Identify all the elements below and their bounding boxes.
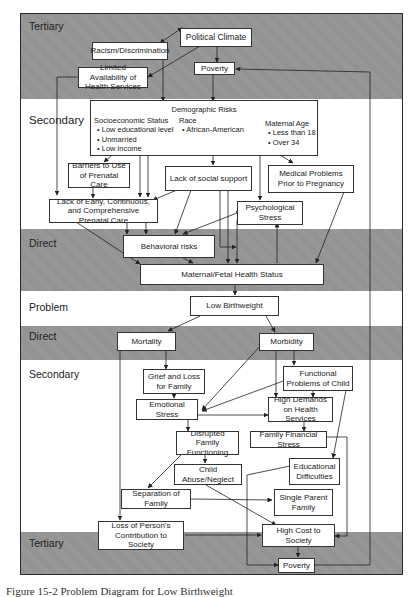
node-medical-problems: Medical Problems Prior to Pregnancy xyxy=(268,165,354,193)
ses-item: Low income xyxy=(97,144,173,153)
race-item: African-American xyxy=(182,125,244,134)
band-label: Direct xyxy=(29,330,56,342)
race-heading: Race xyxy=(179,116,244,125)
band-label: Problem xyxy=(29,301,68,313)
node-political-climate: Political Climate xyxy=(180,28,252,47)
band-tertiary-bottom: Tertiary xyxy=(21,532,402,575)
band-label: Secondary xyxy=(29,114,84,126)
demographic-ses: Socioeconomic Status Low educational lev… xyxy=(94,116,173,154)
node-child-abuse-neglect: Child Abuse/Neglect xyxy=(174,464,242,485)
age-heading: Maternal Age xyxy=(265,119,316,128)
node-single-parent-family: Single Parent Family xyxy=(274,489,333,516)
node-poverty-top: Poverty xyxy=(194,62,235,75)
age-item: Less than 18 xyxy=(268,128,316,137)
age-item: Over 34 xyxy=(268,138,316,147)
node-functional-problems: Functional Problems of Child xyxy=(283,366,353,391)
band-label: Direct xyxy=(29,237,56,249)
band-label: Tertiary xyxy=(29,20,63,32)
node-high-cost-society: High Cost to Society xyxy=(262,524,335,547)
node-grief-loss: Grief and Loss for Family xyxy=(143,369,205,394)
demographic-age: Maternal Age Less than 18 Over 34 xyxy=(265,119,316,147)
figure-caption: Figure 15-2 Problem Diagram for Low Birt… xyxy=(6,585,233,597)
demographic-race: Race African-American xyxy=(179,116,244,135)
node-racism-discrimination: Racism/Discrimination xyxy=(92,42,168,60)
band-label: Tertiary xyxy=(29,537,63,549)
ses-item: Unmarried xyxy=(97,135,173,144)
diagram-frame: Tertiary Secondary Direct Problem Direct… xyxy=(20,13,403,575)
node-educational-difficulties: Educational Difficulties xyxy=(289,458,340,485)
ses-item: Low educational level xyxy=(97,125,173,134)
node-disrupted-family: Disrupted Family Functioning xyxy=(176,431,239,455)
node-emotional-stress: Emotional Stress xyxy=(136,399,198,420)
node-high-demands: High Demands on Health Services xyxy=(268,397,333,422)
node-family-financial-stress: Family Financial Stress xyxy=(250,431,327,448)
node-mortality: Mortality xyxy=(117,332,176,351)
node-maternal-fetal-health: Maternal/Fetal Health Status xyxy=(140,264,324,285)
node-poverty-bottom: Poverty xyxy=(278,558,315,573)
demographic-title: Demographic Risks xyxy=(91,105,317,114)
node-separation-family: Separation of Family xyxy=(121,489,191,509)
node-low-birthweight: Low Birthweight xyxy=(190,296,279,316)
node-lack-social-support: Lack of social support xyxy=(165,166,252,191)
node-loss-contribution: Loss of Person's Contribution to Society xyxy=(98,521,184,550)
node-demographic-risks: Demographic Risks Socioeconomic Status L… xyxy=(90,100,318,156)
node-barriers-prenatal-care: Barriers to Use of Prenatal Care xyxy=(68,163,130,188)
band-direct-bottom: Direct xyxy=(21,326,402,360)
node-lack-prenatal-care: Lack of Early, Continuous, and Comprehen… xyxy=(49,199,158,223)
node-limited-availability: Limited Availability of Health Services xyxy=(78,67,148,88)
node-morbidity: Morbidity xyxy=(259,333,314,351)
node-behavioral-risks: Behavioral risks xyxy=(123,235,215,258)
ses-heading: Socioeconomic Status xyxy=(94,116,173,125)
band-label: Secondary xyxy=(29,368,79,380)
node-psychological-stress: Psychological Stress xyxy=(237,201,303,225)
